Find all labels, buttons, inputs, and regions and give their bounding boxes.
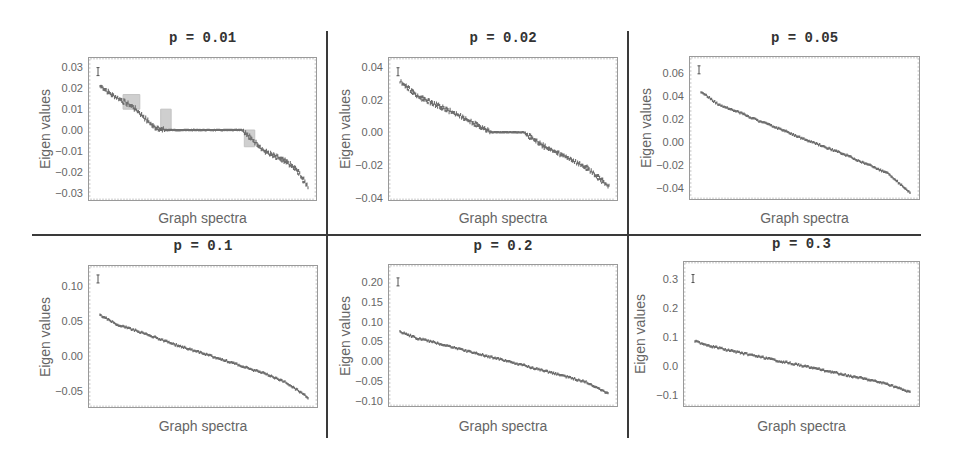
scatter-series xyxy=(0,0,957,460)
outlier-point xyxy=(692,275,695,283)
